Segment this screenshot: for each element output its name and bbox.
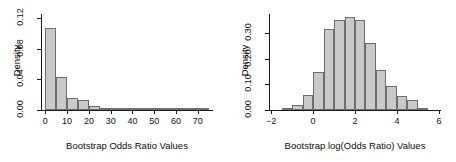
x-tick-label: 70 xyxy=(193,116,203,126)
x-tick xyxy=(154,110,155,114)
x-tick xyxy=(397,110,398,114)
histogram-bar xyxy=(45,28,56,110)
histogram-bar xyxy=(345,17,355,110)
y-axis-line-left xyxy=(41,14,42,110)
y-tick xyxy=(37,110,41,111)
x-tick-label: 6 xyxy=(436,116,441,126)
y-tick xyxy=(37,79,41,80)
y-tick-label: 0.12 xyxy=(15,4,25,30)
histogram-bar xyxy=(365,43,375,110)
histogram-bar xyxy=(313,72,323,110)
histogram-bar xyxy=(324,29,334,110)
histogram-bar xyxy=(376,70,386,110)
y-tick-label: 0.00 xyxy=(15,96,25,122)
y-axis-title-right: Density xyxy=(239,31,250,91)
x-axis-title-right: Bootstrap log(Odds Ratio) Values xyxy=(285,140,426,151)
histogram-bar xyxy=(303,95,313,110)
histogram-bar xyxy=(56,77,67,110)
plot-area-left xyxy=(41,14,213,110)
x-tick xyxy=(111,110,112,114)
x-tick-label: 20 xyxy=(84,116,94,126)
x-tick-label: 40 xyxy=(127,116,137,126)
x-axis-title-left: Bootstrap Odds Ratio Values xyxy=(66,140,188,151)
histogram-bar xyxy=(386,86,396,110)
x-tick-label: 10 xyxy=(62,116,72,126)
plot-area-right xyxy=(269,14,441,110)
x-tick-label: 30 xyxy=(106,116,116,126)
x-tick-label: 2 xyxy=(352,116,357,126)
x-tick-label: 0 xyxy=(311,116,316,126)
x-tick xyxy=(67,110,68,114)
y-tick-label: 0.00 xyxy=(243,96,253,122)
x-tick-label: 4 xyxy=(394,116,399,126)
x-tick-label: 0 xyxy=(43,116,48,126)
y-tick xyxy=(37,18,41,19)
histogram-panel-log-odds-ratio: −20246 0.000.100.200.30 Bootstrap log(Od… xyxy=(228,0,456,162)
y-tick xyxy=(265,59,269,60)
histogram-bar xyxy=(407,100,417,110)
bar-group-right xyxy=(269,14,441,110)
histogram-panel-odds-ratio: 010203040506070 0.000.040.080.12 Bootstr… xyxy=(0,0,228,162)
figure-canvas: 010203040506070 0.000.040.080.12 Bootstr… xyxy=(0,0,456,162)
y-axis-line-right xyxy=(269,14,270,110)
x-tick-label: 60 xyxy=(171,116,181,126)
histogram-bar xyxy=(67,98,78,110)
y-axis-title-left: Density xyxy=(11,31,22,91)
x-tick xyxy=(132,110,133,114)
x-tick xyxy=(198,110,199,114)
histogram-bar xyxy=(334,20,344,110)
histogram-bar xyxy=(355,20,365,110)
y-tick xyxy=(265,33,269,34)
x-tick xyxy=(439,110,440,114)
histogram-bar xyxy=(78,100,89,110)
x-tick xyxy=(355,110,356,114)
x-tick xyxy=(271,110,272,114)
y-tick xyxy=(265,84,269,85)
x-tick xyxy=(89,110,90,114)
histogram-bar xyxy=(397,96,407,110)
x-tick xyxy=(45,110,46,114)
y-tick xyxy=(265,110,269,111)
x-tick xyxy=(313,110,314,114)
bar-group-left xyxy=(41,14,213,110)
x-tick-label: −2 xyxy=(266,116,276,126)
x-tick xyxy=(176,110,177,114)
x-tick-label: 50 xyxy=(149,116,159,126)
y-tick xyxy=(37,49,41,50)
